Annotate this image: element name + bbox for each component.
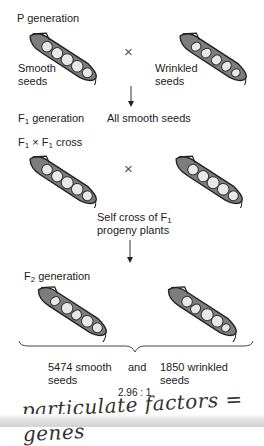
self-cross-note-line1: Self cross of F1 bbox=[97, 211, 172, 225]
f2-mixed-pea-pod-icon-left bbox=[30, 284, 116, 342]
smooth-count-line2: seeds bbox=[48, 374, 77, 387]
wrinkled-count-line2: seeds bbox=[160, 374, 189, 387]
f1-cross-label: F1 × F1 cross bbox=[18, 136, 82, 150]
wrinkled-seeds-label-line2: seeds bbox=[155, 75, 184, 88]
wrinkled-seeds-label-line1: Wrinkled bbox=[155, 62, 198, 75]
f2-generation-label: F2 generation bbox=[24, 270, 90, 284]
and-label: and bbox=[128, 361, 146, 374]
f1-result-label: All smooth seeds bbox=[107, 112, 191, 125]
down-arrow-icon-2 bbox=[125, 240, 135, 264]
smooth-seeds-label-line1: Smooth bbox=[18, 62, 56, 75]
smooth-count-line1: 5474 smooth bbox=[48, 361, 112, 374]
smooth-seeds-label-line2: seeds bbox=[18, 75, 47, 88]
self-cross-note-line2: progeny plants bbox=[97, 224, 169, 237]
f2-mixed-pea-pod-icon-right bbox=[160, 284, 246, 342]
scan-edge-shadow bbox=[0, 414, 264, 427]
p-generation-label: P generation bbox=[17, 12, 79, 25]
cross-symbol: × bbox=[124, 43, 133, 60]
f1-smooth-pea-pod-icon-right bbox=[168, 153, 250, 208]
f1-cross-symbol: × bbox=[124, 160, 133, 177]
down-arrow-icon bbox=[126, 86, 136, 108]
curly-brace-icon bbox=[18, 340, 254, 354]
f1-generation-label: F1 generation bbox=[18, 112, 84, 126]
wrinkled-count-line1: 1850 wrinkled bbox=[160, 361, 228, 374]
f1-smooth-pea-pod-icon-left bbox=[22, 153, 104, 208]
